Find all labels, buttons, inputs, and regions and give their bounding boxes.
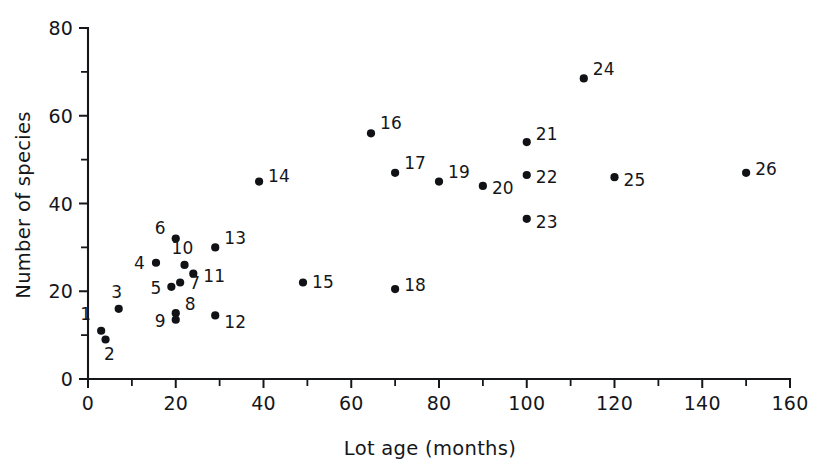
data-point-label: 13 — [224, 228, 246, 248]
data-point-label: 5 — [150, 278, 161, 298]
data-point-marker — [523, 138, 531, 146]
y-tick-label: 0 — [61, 368, 73, 390]
data-point-label: 6 — [155, 218, 166, 238]
data-point-label: 11 — [203, 266, 225, 286]
data-point-marker — [211, 243, 219, 251]
data-point-marker — [580, 74, 588, 82]
data-point-label: 10 — [172, 238, 194, 258]
data-point-marker — [479, 182, 487, 190]
x-tick-label: 20 — [163, 392, 188, 414]
data-point-label: 22 — [536, 167, 558, 187]
data-point-label: 14 — [268, 166, 290, 186]
y-tick-label: 40 — [48, 193, 73, 215]
data-point-marker — [97, 327, 105, 335]
data-point-marker — [167, 283, 175, 291]
data-point-label: 20 — [492, 178, 514, 198]
data-point-label: 19 — [448, 162, 470, 182]
data-point-marker — [189, 270, 197, 278]
data-point-marker — [172, 316, 180, 324]
data-point-marker — [115, 305, 123, 313]
x-tick-label: 120 — [596, 392, 633, 414]
x-tick-label: 40 — [251, 392, 276, 414]
data-point-marker — [255, 177, 263, 185]
data-point-label: 21 — [536, 124, 558, 144]
data-point-marker — [523, 171, 531, 179]
y-tick-label: 80 — [48, 17, 73, 39]
x-tick-label: 100 — [508, 392, 545, 414]
data-point-label: 8 — [185, 294, 196, 314]
data-point-label: 18 — [404, 275, 426, 295]
data-point-label: 16 — [380, 113, 402, 133]
data-point-marker — [742, 169, 750, 177]
y-axis-title: Number of species — [12, 111, 35, 298]
scatter-plot-figure: 020406080 020406080100120140160 12345678… — [0, 0, 822, 470]
x-axis-title: Lot age (months) — [344, 437, 516, 460]
plot-canvas: 020406080 020406080100120140160 12345678… — [0, 0, 822, 470]
data-point-label: 1 — [80, 304, 91, 324]
data-point-marker — [101, 335, 109, 343]
data-point-label: 25 — [624, 170, 646, 190]
data-point-marker — [176, 278, 184, 286]
x-tick-label: 140 — [684, 392, 721, 414]
data-point-label: 26 — [755, 159, 777, 179]
data-point-label: 2 — [104, 344, 115, 364]
data-point-label: 9 — [155, 311, 166, 331]
data-point-marker — [435, 177, 443, 185]
data-point-marker — [610, 173, 618, 181]
y-tick-label: 20 — [48, 280, 73, 302]
data-point-marker — [299, 278, 307, 286]
data-point-marker — [211, 311, 219, 319]
data-point-label: 24 — [593, 59, 615, 79]
data-point-marker — [391, 285, 399, 293]
data-point-label: 17 — [404, 153, 426, 173]
x-tick-label: 80 — [427, 392, 452, 414]
x-tick-label: 60 — [339, 392, 364, 414]
data-point-label: 12 — [224, 312, 246, 332]
data-point-label: 4 — [134, 253, 145, 273]
data-point-marker — [180, 261, 188, 269]
data-point-marker — [391, 169, 399, 177]
y-tick-label: 60 — [48, 105, 73, 127]
data-point-marker — [523, 215, 531, 223]
x-tick-label: 0 — [82, 392, 94, 414]
data-point-label: 15 — [312, 272, 334, 292]
data-point-marker — [152, 259, 160, 267]
data-point-marker — [367, 129, 375, 137]
data-point-label: 23 — [536, 212, 558, 232]
data-point-label: 3 — [111, 282, 122, 302]
x-tick-label: 160 — [772, 392, 809, 414]
